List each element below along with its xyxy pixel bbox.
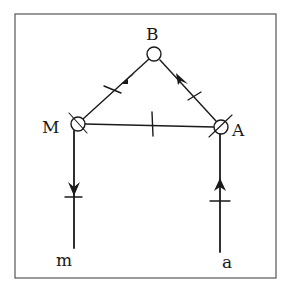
diagram-frame	[15, 14, 276, 278]
label-m: M	[42, 117, 59, 137]
node-a	[209, 115, 232, 137]
edge-b-to-m	[83, 59, 149, 119]
label-b: B	[146, 24, 159, 44]
edge-a-to-b	[160, 60, 216, 121]
node-b	[147, 47, 161, 61]
label-terminal-m: m	[56, 250, 72, 270]
label-a: A	[231, 120, 245, 140]
label-terminal-a: a	[222, 252, 232, 272]
node-circle-icon	[214, 120, 228, 134]
edge-m-to-terminal-m	[65, 131, 82, 248]
diagram-canvas: B M A m a	[0, 0, 286, 290]
node-m	[69, 113, 87, 133]
tick-mark	[152, 112, 153, 136]
edge-terminal-a-to-a	[210, 134, 230, 252]
node-circle-icon	[147, 47, 161, 61]
edge-m-to-a	[85, 112, 214, 136]
